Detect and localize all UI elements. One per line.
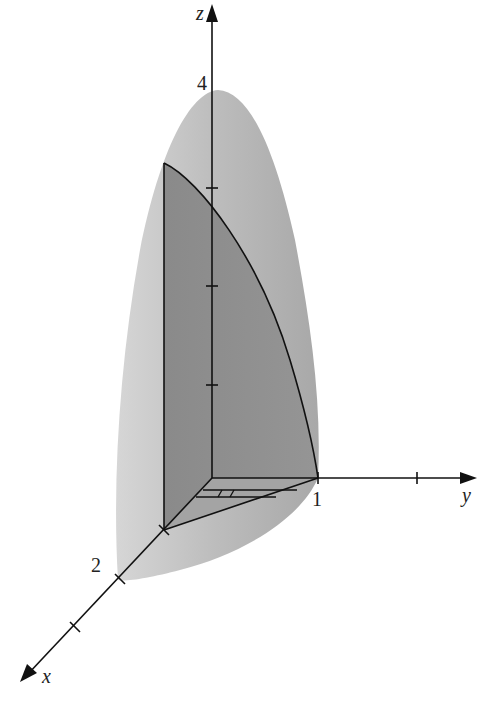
3d-solid-diagram: z 4 y 1 x 2 <box>0 0 481 707</box>
y-axis-arrowhead <box>460 472 477 484</box>
z-axis-arrowhead <box>206 4 218 22</box>
y-axis-label: y <box>460 484 471 507</box>
z-tick-label-4: 4 <box>197 72 207 94</box>
y-tick-label-1: 1 <box>312 488 322 510</box>
x-axis-label: x <box>41 665 51 687</box>
x-tick-label-2: 2 <box>91 554 101 576</box>
z-axis-label: z <box>195 2 204 24</box>
